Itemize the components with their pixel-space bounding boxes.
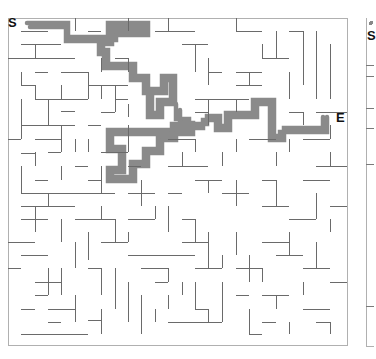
maze-walls: [8, 18, 348, 346]
solution-path: [27, 23, 327, 181]
second-maze-start-label: S: [367, 28, 376, 43]
start-label: S: [8, 15, 17, 30]
end-label: E: [336, 110, 345, 125]
second-maze-partial: [366, 18, 374, 346]
